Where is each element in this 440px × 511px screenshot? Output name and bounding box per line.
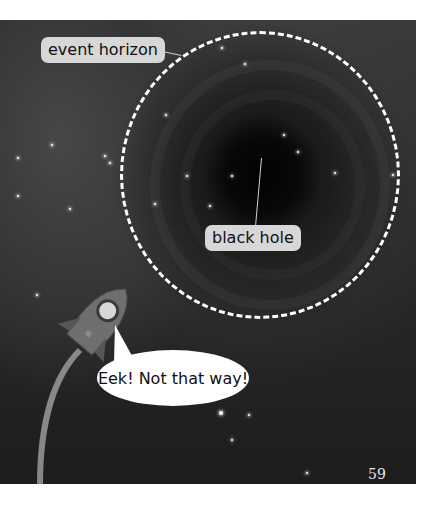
- event-horizon-label: event horizon: [41, 37, 165, 63]
- star: [104, 155, 106, 157]
- speech-bubble-text: Eek! Not that way!: [98, 369, 248, 388]
- star: [17, 195, 19, 197]
- space-illustration: event horizon black hole Eek! Not that w…: [0, 20, 416, 484]
- star: [69, 208, 71, 210]
- black-hole-label: black hole: [205, 225, 301, 251]
- star: [219, 411, 223, 415]
- star: [306, 472, 308, 474]
- page-number: 59: [368, 466, 386, 482]
- star: [109, 162, 111, 164]
- star: [51, 144, 53, 146]
- star: [231, 439, 233, 441]
- star: [248, 414, 250, 416]
- star: [17, 157, 19, 159]
- speech-bubble: Eek! Not that way!: [97, 350, 249, 406]
